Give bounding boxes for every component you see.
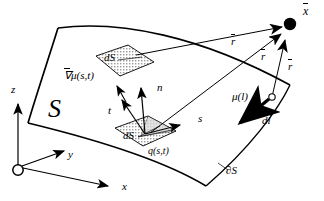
field-point-label: x bbox=[303, 5, 308, 17]
gradient-vector-arrow bbox=[117, 86, 126, 102]
lower-dS-label: dS bbox=[123, 130, 134, 141]
x-axis-label: x bbox=[122, 181, 127, 192]
dl-arrow-accent bbox=[270, 112, 273, 116]
surface-label: S bbox=[48, 96, 61, 122]
r-vector-label-2: r bbox=[261, 51, 265, 62]
gradient-label: ∇μ(s,t) bbox=[64, 70, 94, 81]
upper-dS-label: dS bbox=[104, 52, 115, 63]
gradient-mu-expression: μ(s,t) bbox=[71, 69, 94, 81]
r-text-3: r bbox=[288, 61, 292, 72]
r-vector-from-boundary bbox=[272, 40, 285, 97]
r-text-2: r bbox=[261, 51, 265, 62]
boundary-label: ∂S bbox=[226, 165, 237, 176]
r-text-1: r bbox=[231, 36, 235, 47]
gradient-nabla-symbol: ∇ bbox=[64, 70, 71, 81]
axes-origin-marker bbox=[13, 165, 23, 175]
x-axis bbox=[23, 168, 108, 186]
field-point-text: x bbox=[303, 5, 308, 17]
dl-start-marker bbox=[269, 94, 275, 100]
surface-outline bbox=[28, 26, 290, 186]
normal-vector-label: n bbox=[157, 82, 163, 93]
y-axis bbox=[22, 151, 64, 166]
mu-line-label: μ(l) bbox=[232, 91, 248, 102]
figure-canvas: z y x S ∂S dS dS n t s ∇μ(s,t) q(s,t) μ(… bbox=[0, 0, 324, 201]
tangent-s-label: s bbox=[198, 113, 202, 124]
source-density-label: q(s,t) bbox=[148, 146, 169, 156]
gradient-arrow-shaft bbox=[117, 86, 126, 102]
r-vector-label-3: r bbox=[288, 61, 292, 72]
z-axis-label: z bbox=[11, 84, 15, 95]
r-vector-label-1: r bbox=[231, 36, 235, 47]
field-point-marker bbox=[284, 18, 296, 30]
y-axis-label: y bbox=[68, 149, 73, 160]
dl-text: dl bbox=[262, 115, 271, 126]
tangent-t-label: t bbox=[108, 105, 111, 116]
dl-label: dl bbox=[262, 115, 271, 126]
